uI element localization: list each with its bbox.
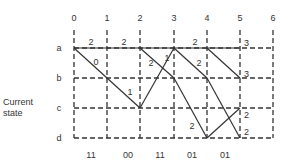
column-labels: 0 1 2 3 4 5 6 xyxy=(71,13,275,23)
edge-label: 2 xyxy=(88,37,93,47)
row-labels: a b c d xyxy=(56,43,61,143)
axis-title-line: Current xyxy=(3,97,34,107)
edge-label: 1 xyxy=(127,87,132,97)
row-label: a xyxy=(56,43,61,53)
edge-label: 0 xyxy=(93,57,98,67)
column-label: 0 xyxy=(71,13,76,23)
edge-a3-b4 xyxy=(174,48,207,78)
row-label: b xyxy=(56,73,61,83)
input-label: 00 xyxy=(123,150,133,160)
edge-a4-b5 xyxy=(207,48,240,78)
input-labels: 11 00 11 01 01 xyxy=(86,150,230,160)
grid-horizontals xyxy=(74,48,273,138)
node-metric: 3 xyxy=(244,38,249,48)
input-label: 11 xyxy=(86,150,95,160)
edge-label: 2 xyxy=(121,37,126,47)
edge-label: 2 xyxy=(148,58,153,68)
trellis-diagram: 0 1 2 3 4 5 6 a b c d Current state 2 2 … xyxy=(0,0,288,166)
edge-label: 1 xyxy=(164,53,169,63)
node-metric: 2 xyxy=(244,110,249,120)
column-label: 5 xyxy=(237,13,242,23)
node-metric: 2 xyxy=(244,127,249,137)
y-axis-title: Current state xyxy=(3,97,34,118)
trellis-paths xyxy=(74,48,240,138)
input-label: 01 xyxy=(220,150,230,160)
column-label: 4 xyxy=(204,13,209,23)
column-label: 1 xyxy=(104,13,109,23)
edge-b1-c2 xyxy=(107,78,140,108)
edge-labels: 2 2 2 0 1 1 2 2 2 xyxy=(88,37,201,131)
edge-label: 2 xyxy=(189,121,194,131)
edge-label: 2 xyxy=(196,58,201,68)
column-label: 2 xyxy=(137,13,142,23)
row-label: c xyxy=(57,103,62,113)
node-metrics: 3 3 2 2 xyxy=(244,38,249,137)
input-label: 01 xyxy=(187,150,197,160)
axis-title-line: state xyxy=(3,108,23,118)
column-label: 3 xyxy=(171,13,176,23)
node-metric: 3 xyxy=(244,69,249,79)
edge-a0-b1 xyxy=(74,48,107,78)
row-label: d xyxy=(56,133,61,143)
edge-label: 2 xyxy=(192,37,197,47)
edge-d4-c5 xyxy=(207,108,240,138)
column-label: 6 xyxy=(270,13,275,23)
input-label: 11 xyxy=(155,150,164,160)
